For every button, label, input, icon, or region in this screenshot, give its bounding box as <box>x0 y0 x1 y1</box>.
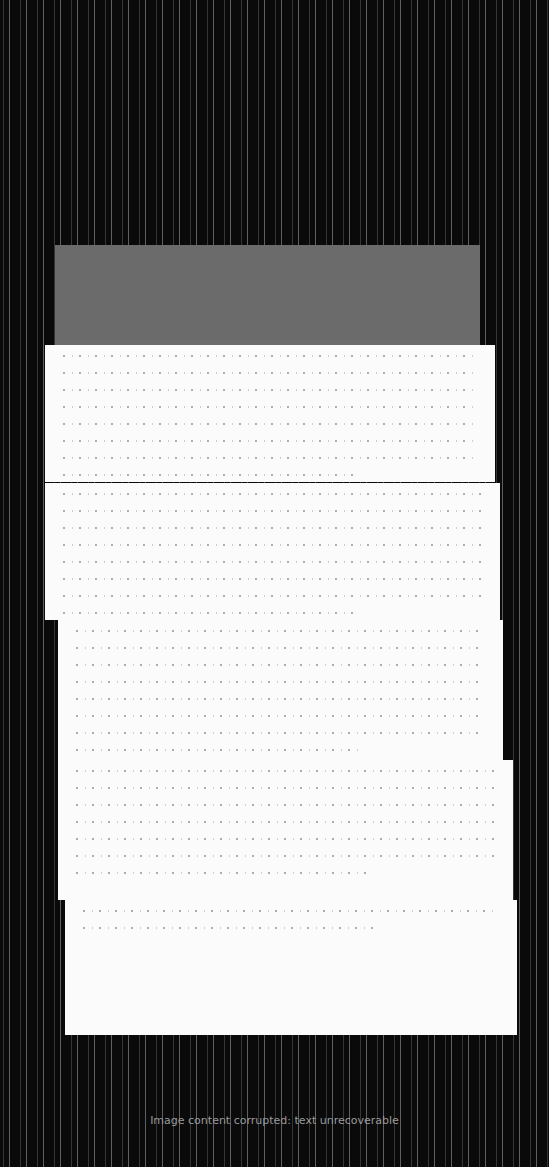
text-line-placeholder <box>63 457 477 459</box>
text-line-placeholder <box>76 715 485 717</box>
text-line-placeholder <box>63 527 482 529</box>
text-line-placeholder <box>63 423 477 425</box>
text-line-placeholder <box>76 664 485 666</box>
text-panel <box>45 483 500 620</box>
text-line-placeholder <box>63 612 356 614</box>
text-panel <box>58 760 513 900</box>
text-line-placeholder <box>63 389 477 391</box>
text-line-placeholder <box>63 372 477 374</box>
text-line-placeholder <box>76 872 369 874</box>
text-line-placeholder <box>76 838 495 840</box>
text-line-placeholder <box>76 821 495 823</box>
text-line-placeholder <box>63 595 482 597</box>
text-panel <box>58 620 503 760</box>
text-line-placeholder <box>63 510 482 512</box>
text-line-placeholder <box>83 927 374 929</box>
text-line-placeholder <box>63 355 477 357</box>
text-line-placeholder <box>76 681 485 683</box>
text-line-placeholder <box>76 855 495 857</box>
text-panel <box>45 345 495 482</box>
text-line-placeholder <box>76 787 495 789</box>
text-line-placeholder <box>76 770 495 772</box>
text-line-placeholder <box>63 578 482 580</box>
text-line-placeholder <box>63 561 482 563</box>
text-line-placeholder <box>76 630 485 632</box>
text-line-placeholder <box>76 749 362 751</box>
text-line-placeholder <box>76 647 485 649</box>
text-line-placeholder <box>76 732 485 734</box>
text-line-placeholder <box>63 474 353 476</box>
text-line-placeholder <box>63 406 477 408</box>
text-line-placeholder <box>76 698 485 700</box>
text-line-placeholder <box>83 910 499 912</box>
text-line-placeholder <box>63 440 477 442</box>
corruption-notice: Image content corrupted: text unrecovera… <box>0 1114 549 1127</box>
header-band <box>55 245 480 345</box>
text-line-placeholder <box>63 544 482 546</box>
text-line-placeholder <box>63 493 482 495</box>
text-panel <box>65 900 517 1035</box>
text-line-placeholder <box>76 804 495 806</box>
